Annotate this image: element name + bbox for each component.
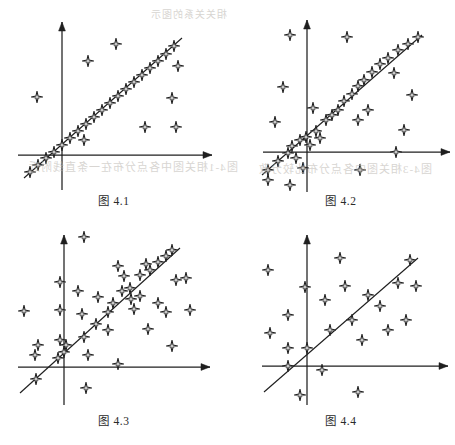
data-point-star-icon xyxy=(341,31,353,43)
data-point-star-icon xyxy=(92,291,104,303)
data-point-star-icon xyxy=(324,324,336,336)
data-point-star-icon xyxy=(29,349,41,361)
data-point-star-icon xyxy=(125,293,137,305)
data-point-star-icon xyxy=(134,269,146,281)
axes xyxy=(263,20,450,192)
data-point-star-icon xyxy=(334,252,346,264)
x-axis-arrowhead xyxy=(201,364,210,371)
data-point-star-icon xyxy=(160,306,172,318)
data-point-star-icon xyxy=(136,69,148,81)
x-axis-arrowhead xyxy=(439,363,448,370)
data-point-star-icon xyxy=(382,52,394,64)
data-point-star-icon xyxy=(112,260,124,272)
data-point-star-icon xyxy=(170,274,182,286)
figure-panel-1: 图 4.1 xyxy=(0,0,228,222)
data-point-star-icon xyxy=(160,48,172,60)
data-point-star-icon xyxy=(362,289,374,301)
data-point-star-icon xyxy=(166,244,178,256)
data-point-star-icon xyxy=(128,76,140,88)
data-point-star-icon xyxy=(339,280,351,292)
regression-line xyxy=(264,258,418,392)
figure-panel-4: 图 4.4 xyxy=(227,222,455,444)
x-axis-arrowhead xyxy=(441,149,450,156)
data-point-star-icon xyxy=(144,62,156,74)
data-point-star-icon xyxy=(406,89,418,101)
data-point-star-icon xyxy=(402,38,414,50)
data-point-star-icon xyxy=(356,334,368,346)
scatter-plot-3 xyxy=(0,222,228,412)
data-point-star-icon xyxy=(354,164,366,176)
data-point-star-icon xyxy=(124,282,136,294)
on-line-points-group xyxy=(262,31,424,176)
data-point-star-icon xyxy=(400,314,412,326)
data-point-star-icon xyxy=(170,121,182,133)
data-point-star-icon xyxy=(82,349,94,361)
y-axis-arrowhead xyxy=(304,235,311,244)
scatter-plot-2 xyxy=(227,0,455,190)
data-point-star-icon xyxy=(32,339,44,351)
data-point-star-icon xyxy=(82,55,94,67)
data-point-star-icon xyxy=(152,256,164,268)
data-point-star-icon xyxy=(398,124,410,136)
data-point-star-icon xyxy=(166,340,178,352)
data-point-star-icon xyxy=(112,90,124,102)
data-point-star-icon xyxy=(139,121,151,133)
data-point-star-icon xyxy=(18,305,30,317)
figure-caption-1: 图 4.1 xyxy=(0,192,228,208)
figure-caption-4: 图 4.4 xyxy=(227,412,455,428)
data-point-star-icon xyxy=(180,272,192,284)
data-point-star-icon xyxy=(152,55,164,67)
data-point-star-icon xyxy=(172,60,184,72)
data-point-star-icon xyxy=(294,389,306,401)
data-point-star-icon xyxy=(282,342,294,354)
data-point-star-icon xyxy=(319,294,331,306)
data-point-star-icon xyxy=(152,297,164,309)
data-point-star-icon xyxy=(277,81,289,93)
data-point-star-icon xyxy=(31,91,43,103)
data-point-star-icon xyxy=(262,264,274,276)
figure-caption-3: 图 4.3 xyxy=(0,412,228,428)
data-point-star-icon xyxy=(264,327,276,339)
data-point-star-icon xyxy=(284,29,296,41)
data-point-star-icon xyxy=(112,358,124,370)
data-point-star-icon xyxy=(284,179,296,191)
data-point-star-icon xyxy=(72,285,84,297)
data-point-star-icon xyxy=(110,38,122,50)
figure-sheet: 图 4.1图 4.2图 4.3图 4.4图4-1相关图中各点分布在一条直线附近图… xyxy=(0,0,455,445)
data-point-star-icon xyxy=(388,67,400,79)
data-point-star-icon xyxy=(184,304,196,316)
data-point-star-icon xyxy=(352,80,364,92)
figure-panel-3: 图 4.3 xyxy=(0,222,228,444)
on-line-points-group xyxy=(282,254,416,372)
data-point-star-icon xyxy=(80,382,92,394)
data-point-star-icon xyxy=(404,254,416,266)
data-point-star-icon xyxy=(301,342,313,354)
data-point-star-icon xyxy=(269,116,281,128)
data-point-star-icon xyxy=(358,74,370,86)
axes xyxy=(18,235,210,405)
y-axis-arrowhead xyxy=(61,235,68,244)
data-point-star-icon xyxy=(107,297,119,309)
data-point-star-icon xyxy=(382,324,394,336)
data-point-star-icon xyxy=(299,281,311,293)
data-point-star-icon xyxy=(142,323,154,335)
scatter-plot-1 xyxy=(0,0,228,190)
data-point-star-icon xyxy=(76,308,88,320)
scatter-plot-4 xyxy=(227,222,455,412)
data-point-star-icon xyxy=(262,174,274,186)
data-point-star-icon xyxy=(346,88,358,100)
data-point-star-icon xyxy=(290,152,302,164)
data-point-star-icon xyxy=(160,250,172,262)
data-point-star-icon xyxy=(362,104,374,116)
scattered-points-group xyxy=(262,252,422,401)
data-point-star-icon xyxy=(307,102,319,114)
regression-line xyxy=(20,248,180,393)
data-point-star-icon xyxy=(390,146,402,158)
y-axis-arrowhead xyxy=(304,20,311,29)
data-point-star-icon xyxy=(346,314,358,326)
data-point-star-icon xyxy=(78,331,90,343)
on-line-points-group xyxy=(24,40,180,178)
data-point-star-icon xyxy=(352,114,364,126)
figure-panel-2: 图 4.2 xyxy=(227,0,455,222)
data-point-star-icon xyxy=(392,44,404,56)
